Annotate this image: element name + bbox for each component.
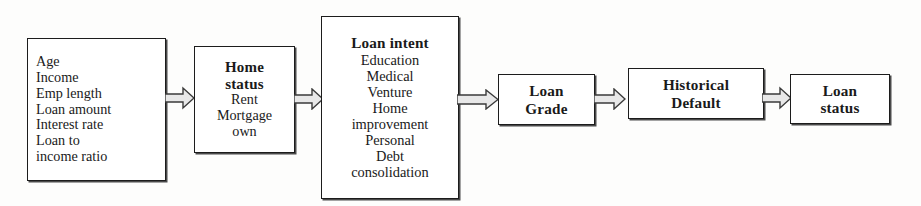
connector-applicant-to-home-status bbox=[165, 86, 195, 110]
node-title-loan-grade-line2: Grade bbox=[525, 100, 567, 117]
node-option-consolidation: consolidation bbox=[351, 164, 429, 180]
node-option-age: Age bbox=[36, 54, 60, 70]
node-title-loan-status-line2: status bbox=[820, 99, 859, 116]
node-option-income: Income bbox=[36, 70, 79, 86]
node-option-personal: Personal bbox=[365, 132, 415, 148]
node-loan-status[interactable]: Loan status bbox=[790, 74, 890, 124]
connector-loan-intent-to-loan-grade bbox=[457, 89, 499, 110]
node-option-loan-amount: Loan amount bbox=[36, 102, 111, 118]
node-option-venture: Venture bbox=[368, 84, 413, 100]
node-option-rent: Rent bbox=[231, 92, 258, 108]
connector-historical-default-to-loan-status bbox=[762, 86, 792, 110]
right-arrow-icon bbox=[762, 86, 792, 110]
node-option-emp-length: Emp length bbox=[36, 86, 102, 102]
right-arrow-icon bbox=[165, 86, 195, 110]
node-loan-grade[interactable]: Loan Grade bbox=[498, 74, 595, 125]
node-title-loan-intent: Loan intent bbox=[351, 34, 429, 51]
connector-home-status-to-loan-intent bbox=[294, 88, 324, 110]
node-option-home: Home bbox=[372, 100, 407, 116]
node-title-historical-default-line1: Historical bbox=[663, 76, 729, 93]
node-title-home-line2: status bbox=[225, 76, 264, 93]
node-title-home-line1: Home bbox=[225, 59, 264, 76]
node-loan-intent[interactable]: Loan intent Education Medical Venture Ho… bbox=[321, 16, 459, 199]
node-home-status[interactable]: Home status Rent Mortgage own bbox=[194, 46, 295, 153]
node-option-income-ratio: income ratio bbox=[36, 149, 107, 165]
node-option-education: Education bbox=[361, 52, 419, 68]
right-arrow-icon bbox=[294, 88, 324, 110]
node-option-improvement: improvement bbox=[352, 116, 429, 132]
node-option-mortgage: Mortgage bbox=[217, 108, 272, 124]
node-historical-default[interactable]: Historical Default bbox=[628, 68, 764, 119]
node-option-loan-to: Loan to bbox=[36, 133, 80, 149]
right-arrow-icon bbox=[457, 89, 499, 110]
diagram-canvas: Age Income Emp length Loan amount Intere… bbox=[0, 0, 921, 206]
node-option-debt: Debt bbox=[376, 148, 404, 164]
node-title-loan-status-line1: Loan bbox=[823, 82, 858, 99]
node-option-interest-rate: Interest rate bbox=[36, 117, 103, 133]
node-option-medical: Medical bbox=[366, 68, 413, 84]
node-option-own: own bbox=[232, 124, 256, 140]
node-applicant-attributes[interactable]: Age Income Emp length Loan amount Intere… bbox=[27, 38, 166, 181]
node-title-loan-grade-line1: Loan bbox=[529, 82, 564, 99]
connector-loan-grade-to-historical-default bbox=[594, 88, 626, 110]
right-arrow-icon bbox=[594, 88, 626, 110]
node-title-historical-default-line2: Default bbox=[671, 94, 720, 111]
